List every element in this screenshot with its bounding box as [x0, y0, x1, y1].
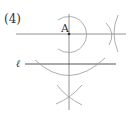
- line-l-label: ℓ: [16, 58, 20, 69]
- problem-number: (4): [4, 12, 21, 26]
- right-arc-2: [114, 15, 118, 52]
- construction-diagram: (4) A ℓ: [0, 0, 135, 119]
- arc-crossing-l: [35, 58, 105, 76]
- point-a-label: A: [60, 22, 70, 35]
